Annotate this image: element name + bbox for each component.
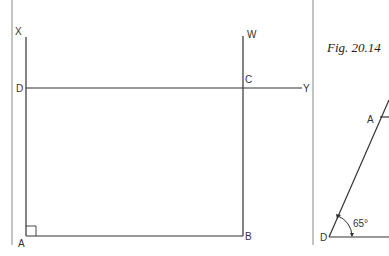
point-label-y: Y: [303, 83, 310, 94]
point-label-d-right: D: [320, 232, 327, 243]
figure-caption: Fig. 20.14: [326, 40, 381, 55]
point-label-c: C: [245, 74, 252, 85]
rectangle-construction-figure: X W D C Y A B: [15, 26, 310, 249]
angle-label: 65°: [353, 218, 368, 229]
point-label-x: X: [15, 26, 22, 37]
point-label-a-right: A: [367, 114, 374, 125]
point-label-b: B: [245, 231, 252, 242]
point-label-d: D: [16, 83, 23, 94]
geometry-diagram: X W D C Y A B Fig. 20.14 65° A D: [0, 0, 389, 256]
angle-arc: [338, 216, 352, 236]
point-label-a: A: [18, 238, 25, 249]
parallelogram-figure: Fig. 20.14 65° A D: [320, 40, 389, 243]
right-angle-marker: [26, 226, 36, 236]
point-label-w: W: [247, 29, 257, 40]
